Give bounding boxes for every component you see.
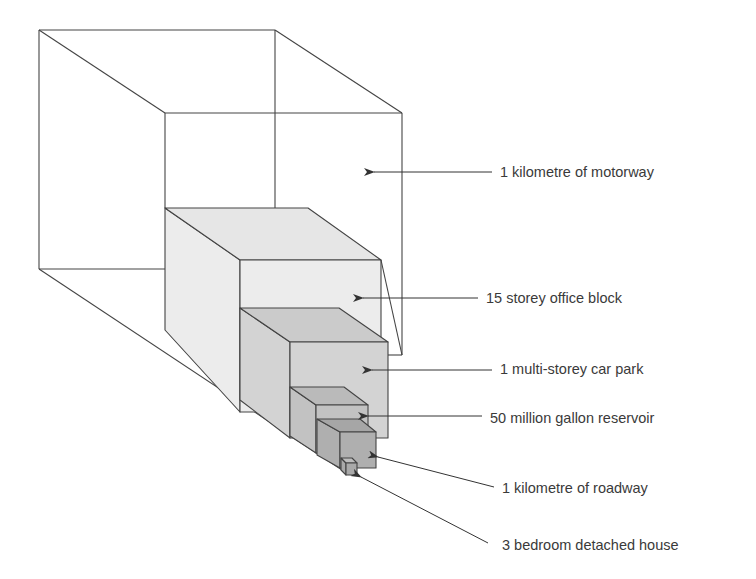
house-front-face bbox=[346, 463, 357, 475]
arrow-roadway bbox=[378, 457, 494, 487]
motorway-top-right-diagonal bbox=[275, 30, 402, 113]
label-house: 3 bedroom detached house bbox=[502, 538, 679, 553]
label-office-block: 15 storey office block bbox=[486, 291, 622, 306]
motorway-top-left-diagonal bbox=[39, 30, 165, 113]
label-roadway: 1 kilometre of roadway bbox=[502, 481, 648, 496]
nested-cubes bbox=[39, 30, 402, 475]
label-car-park: 1 multi-storey car park bbox=[500, 362, 643, 377]
label-reservoir: 50 million gallon reservoir bbox=[490, 411, 654, 426]
label-motorway: 1 kilometre of motorway bbox=[500, 165, 654, 180]
arrow-house bbox=[361, 477, 488, 543]
